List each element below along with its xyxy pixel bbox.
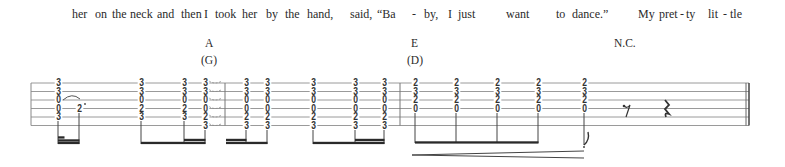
tab-fret-number: 3 [137, 113, 145, 121]
beam [141, 142, 206, 144]
tab-fret-number: 3 [351, 122, 359, 130]
dot-icon [84, 103, 86, 105]
tab-fret-number: 0 [411, 105, 419, 113]
beam [58, 136, 65, 138]
tab-fret-number: 0 [452, 105, 460, 113]
tab-fret-number: 3 [180, 113, 188, 121]
tab-fret-number: 3 [263, 122, 271, 130]
eighth-flag-icon [584, 132, 589, 145]
slur-arc [63, 96, 80, 100]
tab-fret-number: 3 [201, 122, 209, 130]
tablature-staff [0, 0, 785, 167]
tab-fret-number: 3 [380, 122, 388, 130]
tab-fret-number: 0 [493, 105, 501, 113]
tab-fret-number: 0 [580, 105, 588, 113]
tab-fret-number: 3 [54, 113, 62, 121]
eighth-rest-dot [623, 105, 626, 108]
staccato-dot-icon [583, 146, 585, 148]
beam [226, 139, 247, 141]
tab-fret-number: 3 [242, 122, 250, 130]
tab-fret-number: 3 [309, 122, 317, 130]
beam [184, 139, 206, 141]
beam [355, 139, 385, 141]
crescendo-hairpin-bottom [412, 155, 584, 158]
beam [313, 142, 385, 144]
beam [58, 139, 80, 141]
beam [226, 142, 268, 144]
beam [58, 142, 80, 144]
crescendo-hairpin-top [412, 151, 584, 155]
beam [415, 141, 539, 143]
tab-fret-number: 2 [75, 105, 83, 113]
tab-fret-number: 0 [534, 105, 542, 113]
